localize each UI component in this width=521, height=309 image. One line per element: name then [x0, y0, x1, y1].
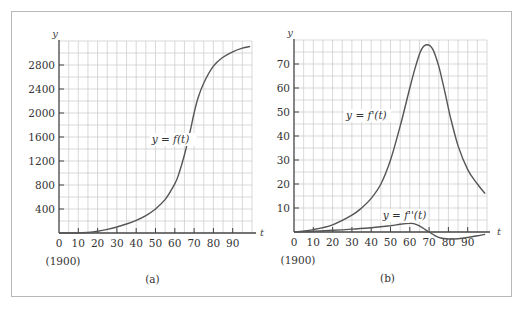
x-tick-label: 60 [168, 237, 181, 249]
x-tick-label: 10 [307, 236, 320, 248]
year-origin-note: (1900) [281, 254, 316, 266]
x-axis-label: t [497, 226, 502, 237]
y-tick-label: 70 [277, 58, 290, 70]
y-tick-label: 2000 [28, 107, 55, 119]
curve-label: y = f'(t) [345, 109, 387, 121]
y-axis-label: y [51, 28, 58, 39]
x-tick-label: 80 [207, 237, 220, 249]
x-tick-label: 70 [187, 237, 200, 249]
x-tick-label: 90 [226, 237, 239, 249]
y-tick-label: 40 [277, 130, 290, 142]
x-tick-label: 20 [91, 237, 104, 249]
y-tick-label: 2800 [28, 59, 55, 71]
curve-label: y = f''(t) [382, 209, 426, 221]
chart-panel-a: yt01020304050607080904008001200160020002… [28, 28, 265, 285]
curve-label: y = f(t) [151, 133, 190, 145]
year-origin-note: (1900) [46, 255, 81, 267]
x-tick-label: 0 [56, 237, 63, 249]
grid [294, 40, 487, 232]
y-tick-label: 20 [277, 178, 290, 190]
y-tick-label: 1600 [28, 131, 55, 143]
x-tick-label: 30 [345, 236, 358, 248]
x-tick-label: 30 [110, 237, 123, 249]
x-tick-label: 0 [291, 236, 298, 248]
chart-panel-b: yt010203040506070809010203040506070(1900… [277, 27, 502, 284]
x-tick-label: 80 [442, 236, 455, 248]
x-axis-label: t [260, 227, 265, 238]
panel-caption: (a) [145, 273, 159, 285]
y-tick-label: 800 [35, 179, 55, 191]
x-tick-label: 40 [365, 236, 378, 248]
y-axis-label: y [286, 27, 293, 38]
figure-canvas: yt01020304050607080904008001200160020002… [0, 0, 521, 309]
x-tick-label: 40 [130, 237, 143, 249]
y-tick-label: 30 [277, 154, 290, 166]
x-tick-label: 60 [403, 236, 416, 248]
panel-caption: (b) [380, 272, 395, 284]
x-tick-label: 50 [149, 237, 162, 249]
y-tick-label: 400 [35, 203, 55, 215]
y-tick-label: 2400 [28, 83, 55, 95]
x-tick-label: 20 [326, 236, 339, 248]
x-tick-label: 70 [422, 236, 435, 248]
x-tick-label: 50 [384, 236, 397, 248]
y-tick-label: 60 [277, 82, 290, 94]
y-tick-label: 10 [277, 202, 290, 214]
y-tick-label: 1200 [28, 155, 55, 167]
x-tick-label: 10 [72, 237, 85, 249]
y-tick-label: 50 [277, 106, 290, 118]
